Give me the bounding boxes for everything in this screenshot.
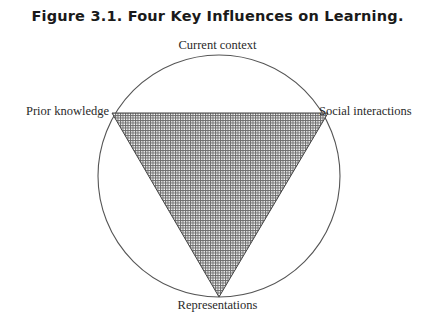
label-prior-knowledge: Prior knowledge: [26, 104, 109, 119]
label-current-context: Current context: [0, 38, 435, 53]
label-social-interactions: Social interactions: [319, 104, 412, 119]
label-representations: Representations: [0, 298, 435, 313]
